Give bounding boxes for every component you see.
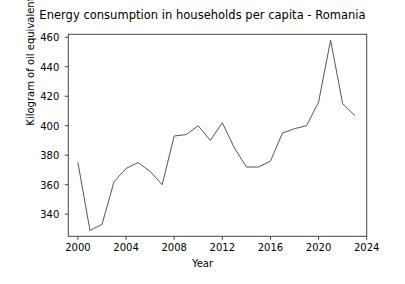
axes-spines (68, 34, 366, 236)
plot-area (0, 0, 405, 284)
plot-frame (68, 34, 366, 236)
y-tick-marks (65, 37, 69, 214)
x-tick-marks (78, 236, 367, 240)
line-series-romania (78, 40, 355, 230)
data-series-group (78, 40, 355, 230)
chart-figure: Energy consumption in households per cap… (0, 0, 405, 284)
